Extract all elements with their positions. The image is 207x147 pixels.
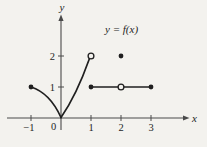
- x-axis-arrow-icon: [183, 115, 190, 120]
- function-plot: [29, 53, 154, 117]
- closed-point-3-1: [149, 85, 154, 90]
- y-axis-arrow-icon: [58, 15, 63, 22]
- x-axis-label: x: [191, 112, 197, 124]
- x-tick-label-2: 2: [118, 122, 123, 133]
- left-curve-branch: [31, 87, 61, 118]
- x-tick-label-3: 3: [148, 122, 153, 133]
- origin-label: 0: [51, 121, 56, 132]
- closed-point-neg1-1: [29, 85, 34, 90]
- labels: y x y = f(x) 0 −1 1 2 3 1 2: [23, 1, 197, 134]
- x-tick-label-1: 1: [88, 122, 93, 133]
- graph-canvas: y x y = f(x) 0 −1 1 2 3 1 2: [0, 0, 207, 147]
- x-tick-label-neg1: −1: [23, 122, 34, 133]
- y-tick-label-2: 2: [50, 51, 55, 62]
- y-axis-label: y: [59, 1, 65, 13]
- open-point-1-2: [88, 53, 94, 59]
- closed-point-2-2: [119, 54, 124, 59]
- function-label: y = f(x): [104, 23, 138, 36]
- open-point-2-1: [118, 84, 124, 90]
- y-tick-label-1: 1: [50, 82, 55, 93]
- closed-point-1-1: [89, 85, 94, 90]
- axes: [7, 15, 190, 131]
- function-graph-figure: y x y = f(x) 0 −1 1 2 3 1 2: [0, 0, 207, 147]
- middle-curve-branch: [61, 59, 89, 117]
